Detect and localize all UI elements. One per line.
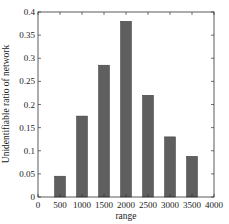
x-tick-label: 3000: [161, 200, 180, 210]
bar-2500: [143, 95, 154, 197]
bar-chart: 05001000150020002500300035004000 00.050.…: [0, 0, 229, 224]
x-tick-label: 2000: [117, 200, 136, 210]
y-tick-label: 0: [31, 192, 36, 202]
bar-1500: [99, 65, 110, 197]
y-tick-label: 0.15: [19, 123, 35, 133]
y-tick-label: 0.05: [19, 169, 35, 179]
bar-2000: [121, 21, 132, 197]
x-tick-label: 4000: [205, 200, 224, 210]
bar-1000: [77, 116, 88, 197]
x-tick-label: 3500: [183, 200, 202, 210]
x-tick-label: 500: [53, 200, 67, 210]
bar-3500: [187, 156, 198, 197]
x-axis-title: range: [115, 211, 136, 221]
y-tick-label: 0.25: [19, 76, 35, 86]
y-tick-label: 0.35: [19, 30, 35, 40]
y-axis-title: Unidentifiable ratio of network: [1, 45, 11, 164]
bar-500: [55, 176, 66, 197]
bars: [55, 21, 198, 197]
y-tick-label: 0.4: [24, 7, 36, 17]
y-tick-label: 0.2: [24, 100, 35, 110]
x-tick-label: 2500: [139, 200, 158, 210]
y-axis: 00.050.10.150.20.250.30.350.4: [19, 7, 214, 202]
x-tick-label: 1000: [73, 200, 92, 210]
bar-3000: [165, 137, 176, 197]
y-tick-label: 0.3: [24, 53, 36, 63]
x-tick-label: 1500: [95, 200, 114, 210]
x-tick-label: 0: [36, 200, 41, 210]
y-tick-label: 0.1: [24, 146, 35, 156]
